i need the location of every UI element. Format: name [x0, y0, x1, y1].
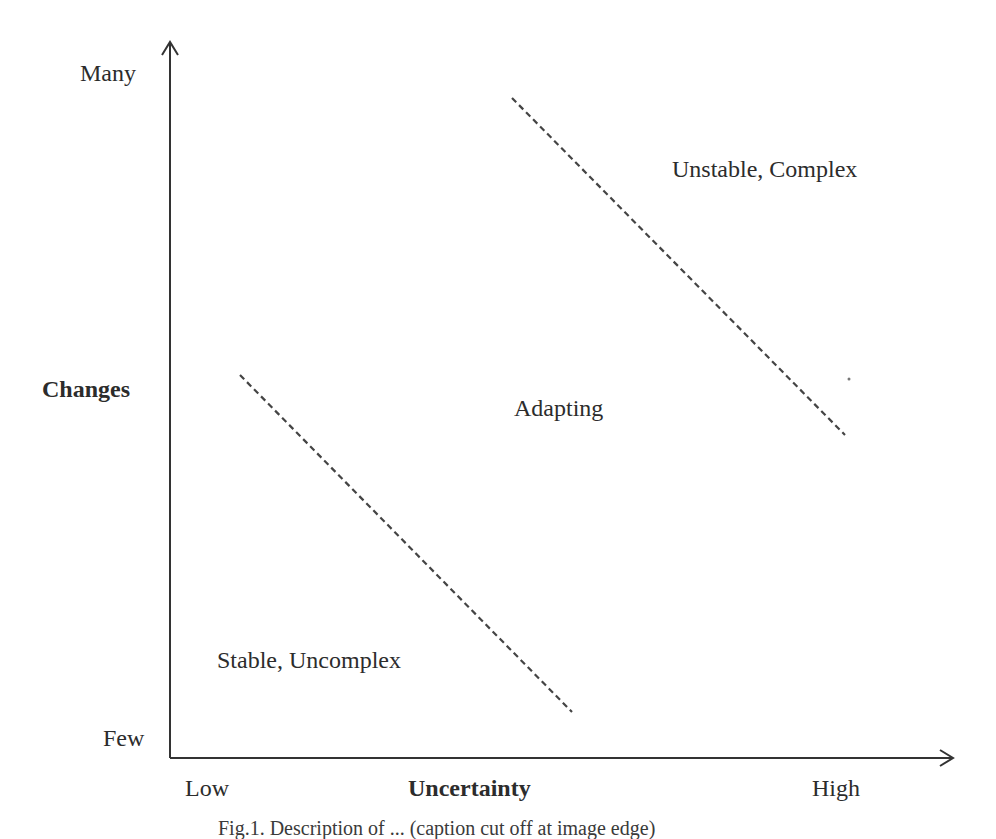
y-axis-high-label: Many: [80, 61, 136, 85]
x-axis-high-label: High: [812, 776, 860, 800]
x-axis-low-label: Low: [185, 776, 229, 800]
region-label-unstable: Unstable, Complex: [672, 157, 857, 181]
y-axis-low-label: Few: [103, 726, 144, 750]
region-label-adapting: Adapting: [514, 396, 603, 420]
region-label-stable: Stable, Uncomplex: [217, 648, 401, 672]
y-axis-title: Changes: [42, 377, 130, 401]
x-axis-title: Uncertainty: [408, 776, 531, 800]
speck-artifact: [848, 378, 851, 381]
upper-boundary-line: [512, 98, 845, 435]
figure-caption: Fig.1. Description of ... (caption cut o…: [218, 818, 655, 838]
